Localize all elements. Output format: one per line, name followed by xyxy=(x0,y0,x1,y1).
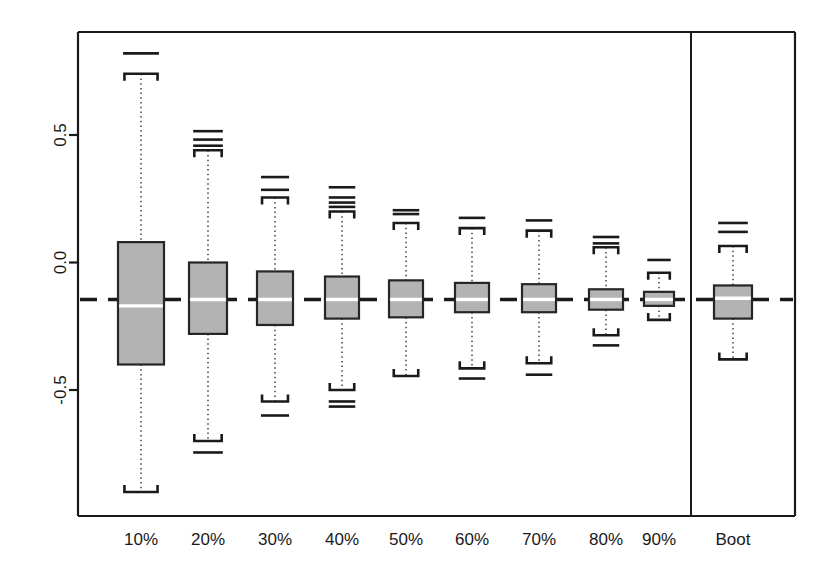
x-axis-tick-label: 20% xyxy=(191,530,225,549)
x-axis-tick-label: 10% xyxy=(124,530,158,549)
box-body[interactable] xyxy=(714,285,752,318)
boxplot-chart: 0.50.0-0.5 10%20%30%40%50%60%70%80%90%Bo… xyxy=(0,0,832,574)
x-axis-tick-label: Boot xyxy=(716,530,751,549)
box-body[interactable] xyxy=(455,283,489,312)
y-axis-tick-label: 0.0 xyxy=(51,251,70,275)
y-axis-tick-label: 0.5 xyxy=(51,123,70,147)
y-axis-tick-label: -0.5 xyxy=(51,375,70,404)
box-body[interactable] xyxy=(118,242,164,364)
x-axis-tick-label: 70% xyxy=(522,530,556,549)
x-axis-tick-label: 50% xyxy=(389,530,423,549)
x-axis-tick-label: 40% xyxy=(325,530,359,549)
boxplot-box-group[interactable] xyxy=(589,237,623,345)
x-axis-tick-label: 30% xyxy=(258,530,292,549)
x-axis-tick-label: 80% xyxy=(589,530,623,549)
x-axis-tick-label: 90% xyxy=(642,530,676,549)
box-body[interactable] xyxy=(325,277,359,319)
x-axis-tick-label: 60% xyxy=(455,530,489,549)
boxplot-figure: 0.50.0-0.5 10%20%30%40%50%60%70%80%90%Bo… xyxy=(0,0,832,574)
